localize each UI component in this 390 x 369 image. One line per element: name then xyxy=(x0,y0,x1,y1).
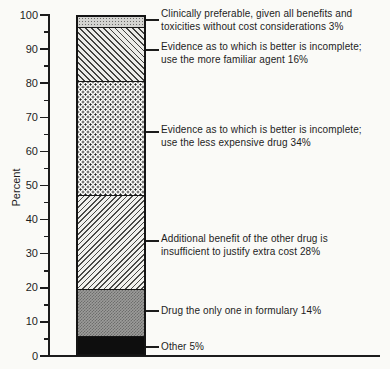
y-axis-tick-label: 50 xyxy=(10,179,38,192)
y-axis-minor-tick xyxy=(44,168,49,170)
segment-label-line: Additional benefit of the other drug is xyxy=(161,232,328,245)
y-axis-tick-label: 60 xyxy=(10,145,38,158)
leader-line xyxy=(146,346,159,348)
y-axis-major-tick xyxy=(40,355,49,357)
y-axis-major-tick xyxy=(40,185,49,187)
segment-label-line: Drug the only one in formulary 14% xyxy=(161,304,321,317)
segment-label-line: Evidence as to which is better is incomp… xyxy=(161,123,362,136)
y-axis-tick-label: 20 xyxy=(10,281,38,294)
leader-line xyxy=(146,240,159,242)
leader-line xyxy=(146,19,159,21)
bar-segment-gray-checker xyxy=(78,289,144,336)
segment-label: Evidence as to which is better is incomp… xyxy=(161,40,362,66)
segment-label: Other 5% xyxy=(161,340,204,353)
segment-label-line: use the less expensive drug 34% xyxy=(161,136,362,149)
segment-label: Drug the only one in formulary 14% xyxy=(161,304,321,317)
segment-label-line: toxicities without cost considerations 3… xyxy=(161,20,352,33)
y-axis-minor-tick xyxy=(44,270,49,272)
y-axis-tick-label: 80 xyxy=(10,77,38,90)
y-axis-minor-tick xyxy=(44,338,49,340)
leader-line xyxy=(146,131,159,133)
y-axis-tick-label: 30 xyxy=(10,247,38,260)
segment-label-line: insufficient to justify extra cost 28% xyxy=(161,245,328,258)
leader-line xyxy=(146,49,159,51)
y-axis-major-tick xyxy=(40,321,49,323)
y-axis-major-tick xyxy=(40,82,49,84)
segment-label: Additional benefit of the other drug isi… xyxy=(161,232,328,258)
y-axis-minor-tick xyxy=(44,100,49,102)
segment-label-line: use the more familiar agent 16% xyxy=(161,53,362,66)
y-axis-major-tick xyxy=(40,219,49,221)
y-axis-minor-tick xyxy=(44,236,49,238)
y-axis-tick-label: 40 xyxy=(10,213,38,226)
bar-segment-diagonal-up-hatch xyxy=(78,195,144,289)
y-axis-tick-label: 90 xyxy=(10,43,38,56)
y-axis-major-tick xyxy=(40,117,49,119)
stacked-bar-figure: Percent 0102030405060708090100 Clinicall… xyxy=(0,0,390,369)
y-axis-major-tick xyxy=(40,14,49,16)
y-axis-tick-label: 100 xyxy=(10,9,38,22)
y-axis-major-tick xyxy=(40,287,49,289)
bar-segment-light-stipple xyxy=(78,17,144,27)
y-axis-minor-tick xyxy=(44,134,49,136)
leader-line xyxy=(146,310,159,312)
stacked-bar xyxy=(76,15,146,356)
segment-label-line: Evidence as to which is better is incomp… xyxy=(161,40,362,53)
y-axis-minor-tick xyxy=(44,31,49,33)
bar-segment-solid-black xyxy=(78,336,144,354)
segment-label: Clinically preferable, given all benefit… xyxy=(161,7,352,33)
y-axis-tick-label: 70 xyxy=(10,111,38,124)
y-axis-major-tick xyxy=(40,151,49,153)
bar-segment-diagonal-down-hatch xyxy=(78,27,144,81)
segment-label-line: Other 5% xyxy=(161,340,204,353)
y-axis-minor-tick xyxy=(44,65,49,67)
bar-segment-dots xyxy=(78,81,144,195)
y-axis-tick-label: 10 xyxy=(10,315,38,328)
y-axis-minor-tick xyxy=(44,304,49,306)
y-axis-major-tick xyxy=(40,253,49,255)
y-axis-minor-tick xyxy=(44,202,49,204)
segment-label: Evidence as to which is better is incomp… xyxy=(161,123,362,149)
y-axis-major-tick xyxy=(40,48,49,50)
segment-label-line: Clinically preferable, given all benefit… xyxy=(161,7,352,20)
y-axis-tick-label: 0 xyxy=(10,350,38,363)
